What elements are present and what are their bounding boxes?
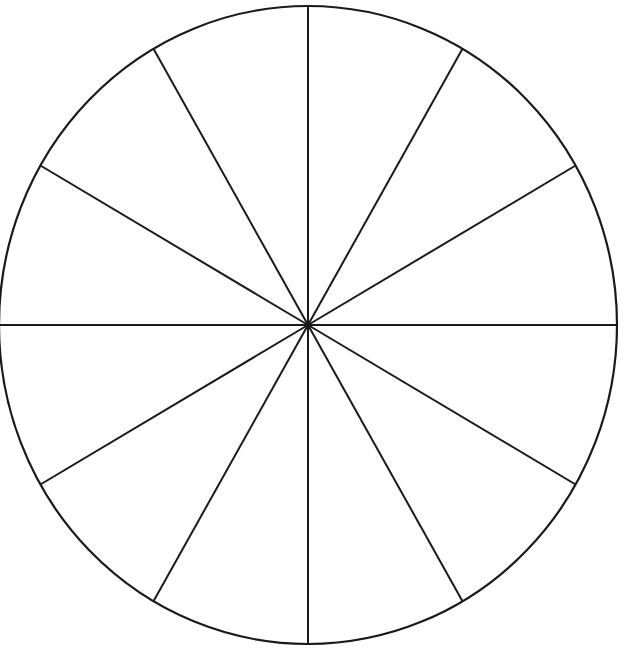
center-hub (305, 322, 311, 328)
segmented-circle-diagram (0, 0, 628, 658)
